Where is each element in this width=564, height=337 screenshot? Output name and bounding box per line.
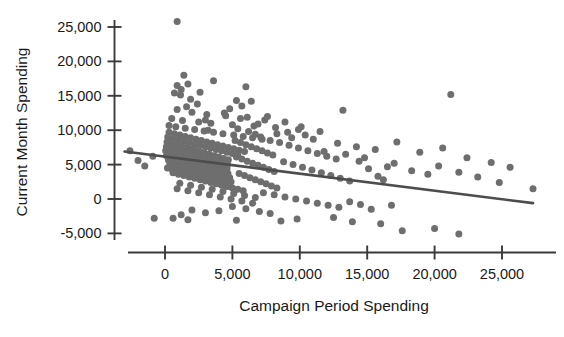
data-point <box>242 205 249 212</box>
data-point <box>280 158 287 165</box>
data-point <box>184 216 191 223</box>
data-point <box>237 115 244 122</box>
data-point <box>195 189 202 196</box>
y-tick-label: 5,000 <box>65 157 101 173</box>
data-point <box>333 156 340 163</box>
data-point <box>384 163 391 170</box>
data-point <box>242 83 249 90</box>
data-point <box>507 164 514 171</box>
data-point <box>357 201 364 208</box>
data-point <box>233 97 240 104</box>
data-point <box>304 147 311 154</box>
data-point <box>455 169 462 176</box>
y-tick-labels: -5,00005,00010,00015,00020,00025,000 <box>57 19 101 241</box>
data-point <box>463 154 470 161</box>
data-point <box>365 165 372 172</box>
data-point <box>290 161 297 168</box>
x-tick-label: 20,000 <box>412 266 456 282</box>
data-point <box>248 98 255 105</box>
x-tick-label: 15,000 <box>345 266 389 282</box>
data-point <box>321 148 328 155</box>
data-point <box>182 125 189 132</box>
data-point <box>303 198 310 205</box>
data-point <box>294 215 301 222</box>
data-point <box>234 125 241 132</box>
data-point <box>195 118 202 125</box>
data-point <box>317 128 324 135</box>
data-point <box>206 191 213 198</box>
data-point <box>217 193 224 200</box>
data-point <box>302 132 309 139</box>
data-point <box>245 128 252 135</box>
data-point <box>349 218 356 225</box>
data-point <box>281 118 288 125</box>
data-point <box>372 146 379 153</box>
data-point <box>447 91 454 98</box>
data-point <box>172 123 179 130</box>
data-point <box>180 72 187 79</box>
data-point <box>273 184 280 191</box>
data-point <box>188 109 195 116</box>
data-point <box>184 187 191 194</box>
data-point <box>202 209 209 216</box>
data-point <box>219 130 226 137</box>
data-point <box>377 220 384 227</box>
data-point <box>361 154 368 161</box>
data-point <box>308 167 315 174</box>
y-tick-label: 10,000 <box>57 122 101 138</box>
x-tick-label: 10,000 <box>278 266 322 282</box>
data-point <box>264 113 271 120</box>
data-points-group <box>126 18 536 238</box>
data-point <box>249 200 256 207</box>
y-axis-title: Current Month Spending <box>13 48 30 217</box>
data-point <box>244 114 251 121</box>
data-point <box>179 117 186 124</box>
data-point <box>408 167 415 174</box>
data-point <box>393 138 400 145</box>
x-axis <box>128 246 556 260</box>
data-point <box>496 179 503 186</box>
data-point <box>241 148 248 155</box>
data-point <box>171 90 178 97</box>
data-point <box>177 92 184 99</box>
data-point <box>174 18 181 25</box>
data-point <box>194 101 201 108</box>
data-point <box>314 150 321 157</box>
data-point <box>202 116 209 123</box>
data-point <box>256 208 263 215</box>
data-point <box>530 185 537 192</box>
data-point <box>431 225 438 232</box>
data-point <box>221 110 228 117</box>
data-point <box>272 124 279 131</box>
data-point <box>188 207 195 214</box>
data-point <box>424 171 431 178</box>
data-point <box>168 115 175 122</box>
data-point <box>260 189 267 196</box>
data-point <box>299 164 306 171</box>
y-tick-label: 20,000 <box>57 53 101 69</box>
data-point <box>277 218 284 225</box>
data-point <box>325 202 332 209</box>
data-point <box>435 162 442 169</box>
y-tick-label: 15,000 <box>57 88 101 104</box>
data-point <box>346 198 353 205</box>
data-point <box>288 134 295 141</box>
y-tick-label: 25,000 <box>57 19 101 35</box>
x-axis-title: Campaign Period Spending <box>239 297 429 314</box>
data-point <box>388 202 395 209</box>
data-point <box>416 149 423 156</box>
data-point <box>292 196 299 203</box>
data-point <box>353 143 360 150</box>
data-point <box>269 151 276 158</box>
data-point <box>391 160 398 167</box>
data-point <box>295 145 302 152</box>
data-point <box>174 185 181 192</box>
data-point <box>276 139 283 146</box>
y-tick-label: 0 <box>93 191 101 207</box>
data-point <box>267 210 274 217</box>
data-point <box>342 151 349 158</box>
x-tick-label: 25,000 <box>480 266 524 282</box>
data-point <box>191 126 198 133</box>
data-point <box>170 215 177 222</box>
x-tick-label: 5,000 <box>214 266 250 282</box>
